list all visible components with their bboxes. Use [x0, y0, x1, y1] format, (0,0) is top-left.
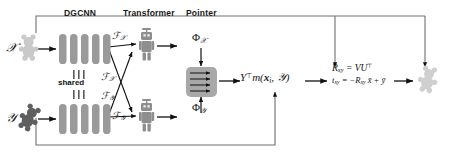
dgcnn-block-y	[59, 104, 111, 134]
rotation-equation: Rxy = VU⊤	[332, 63, 385, 75]
header-dgcnn: DGCNN	[64, 8, 96, 18]
input-label-x: 𝒳	[6, 40, 17, 56]
header-pointer: Pointer	[186, 8, 217, 18]
svd-expression: Y⊤m(xi, 𝒴)	[240, 71, 289, 85]
transform-equations: Rxy = VU⊤ txy = −Rxy x̄ + ȳ	[332, 63, 385, 86]
translation-equation: txy = −Rxy x̄ + ȳ	[332, 75, 385, 86]
bear-icon-light-x	[19, 34, 39, 60]
architecture-diagram: DGCNN Transformer Pointer 𝒳 𝒴 shared ℱ𝒳 …	[0, 0, 450, 160]
bear-icon-light-output	[416, 65, 441, 95]
feature-label-fx-mid: ℱ𝒳	[101, 71, 115, 83]
bear-icon-dark-y	[15, 102, 45, 134]
feature-label-fx-top: ℱ𝒳	[112, 30, 126, 42]
input-label-y: 𝒴	[6, 110, 16, 126]
transformer-robot-x-icon	[139, 28, 154, 61]
feature-label-fy-mid: ℱ𝒴	[101, 90, 114, 102]
header-transformer: Transformer	[123, 8, 175, 18]
dgcnn-block-x	[59, 34, 111, 64]
phi-label-y: Φ𝒴	[192, 101, 206, 115]
feature-label-fy-bottom: ℱ𝒴	[112, 110, 125, 122]
pointer-block	[186, 67, 217, 97]
shared-label: shared	[58, 78, 84, 87]
phi-label-x: Φ𝒳	[192, 31, 206, 45]
transformer-robot-y-icon	[139, 99, 154, 132]
